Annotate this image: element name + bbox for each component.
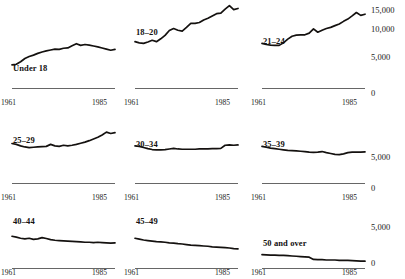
x-tick-start-r1c2: 1961 bbox=[251, 193, 266, 202]
panel-30-34: 30–34 bbox=[135, 95, 240, 193]
x-tick-start-r2c1: 1961 bbox=[124, 268, 139, 277]
panel-under-18: Under 18 bbox=[12, 0, 117, 98]
x-tick-end-r1c1: 1985 bbox=[215, 193, 230, 202]
series-label-40-44: 40–44 bbox=[13, 216, 35, 226]
plot-area-21-24 bbox=[262, 0, 367, 98]
x-tick-end-r2c1: 1985 bbox=[215, 268, 230, 277]
x-tick-start-r2c2: 1961 bbox=[251, 268, 266, 277]
small-multiples-figure: Number of persons arrested, by age group… bbox=[0, 0, 405, 279]
data-line bbox=[262, 255, 365, 262]
series-svg bbox=[262, 0, 367, 98]
plot-area-18-20 bbox=[135, 0, 240, 98]
data-line bbox=[135, 238, 238, 249]
series-label-under-18: Under 18 bbox=[13, 63, 47, 73]
y-tick-15000-r0: 15,000 bbox=[371, 5, 394, 15]
series-label-50-and-over: 50 and over bbox=[263, 238, 307, 248]
panel-25-29: 25–29 bbox=[12, 95, 117, 193]
y-tick-0-r0: 0 bbox=[371, 88, 375, 98]
y-tick-5000-r2: 5,000 bbox=[371, 222, 390, 232]
x-tick-end-r1c2: 1985 bbox=[342, 193, 357, 202]
series-label-18-20: 18–20 bbox=[136, 27, 158, 37]
panel-18-20: 18–20 bbox=[135, 0, 240, 98]
x-tick-end-r2c0: 1985 bbox=[92, 268, 107, 277]
x-tick-end-r0c2: 1985 bbox=[342, 98, 357, 107]
series-svg bbox=[135, 0, 240, 98]
y-tick-5000-r1: 5,000 bbox=[371, 152, 390, 162]
x-tick-start-r0c2: 1961 bbox=[251, 98, 266, 107]
data-line bbox=[135, 6, 238, 44]
series-label-30-34: 30–34 bbox=[136, 139, 158, 149]
x-tick-end-r2c2: 1985 bbox=[342, 268, 357, 277]
y-tick-0-r1: 0 bbox=[371, 183, 375, 193]
panel-35-39: 35–39 bbox=[262, 95, 367, 193]
panel-21-24: 21–24 bbox=[262, 0, 367, 98]
y-tick-5000-r0: 5,000 bbox=[371, 52, 390, 62]
x-tick-start-r2c0: 1961 bbox=[1, 268, 16, 277]
y-tick-0-r2: 0 bbox=[371, 258, 375, 268]
data-line bbox=[12, 44, 115, 65]
plot-area-under-18 bbox=[12, 0, 117, 98]
series-label-35-39: 35–39 bbox=[263, 139, 285, 149]
x-tick-end-r0c1: 1985 bbox=[215, 98, 230, 107]
y-tick-10000-r0: 10,000 bbox=[371, 24, 394, 34]
x-tick-start-r1c0: 1961 bbox=[1, 193, 16, 202]
series-svg bbox=[12, 0, 117, 98]
x-tick-end-r0c0: 1985 bbox=[92, 98, 107, 107]
series-label-45-49: 45–49 bbox=[136, 216, 158, 226]
x-tick-start-r0c0: 1961 bbox=[1, 98, 16, 107]
series-label-21-24: 21–24 bbox=[263, 36, 285, 46]
x-tick-start-r1c1: 1961 bbox=[124, 193, 139, 202]
data-line bbox=[12, 236, 115, 243]
x-tick-end-r1c0: 1985 bbox=[92, 193, 107, 202]
series-label-25-29: 25–29 bbox=[13, 135, 35, 145]
x-tick-start-r0c1: 1961 bbox=[124, 98, 139, 107]
